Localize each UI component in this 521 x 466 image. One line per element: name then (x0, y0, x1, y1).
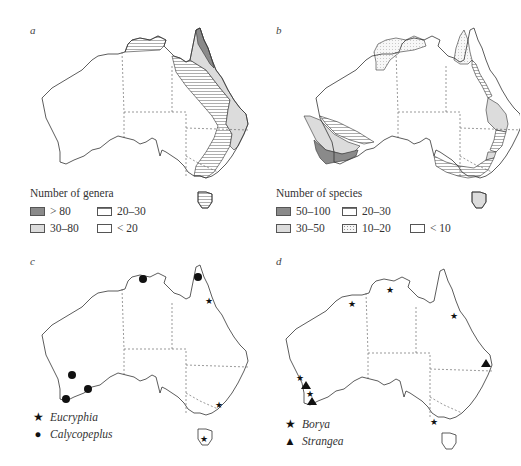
panel-a-genera-map: a Number of genera > 80 20–30 30–80 < 20 (0, 0, 260, 233)
legend-item: ▲ Strangea (284, 435, 344, 447)
legend-label: Borya (302, 418, 330, 430)
legend-item: 20–30 (97, 205, 146, 217)
legend-label: Calycopeplus (50, 428, 113, 440)
region-20-30 (125, 36, 166, 52)
calycopeplus-marker (84, 385, 92, 393)
legend-item: > 80 (30, 205, 71, 217)
panel-b-species-map: b Number of species 50–100 20–30 30–50 (260, 0, 520, 233)
borya-marker: ★ (348, 299, 356, 309)
legend-item: ★ Eucryphia (32, 410, 98, 424)
legend-item: ● Calycopeplus (32, 428, 113, 440)
triangle-icon: ▲ (284, 435, 296, 447)
region-20-30 (490, 130, 506, 152)
region-30-50 (486, 98, 508, 132)
australia-map: ★ ★ ★ ★ ★ ★ (260, 233, 520, 466)
legend-label: Strangea (302, 435, 344, 447)
swatch-dark (30, 207, 45, 216)
borya-marker: ★ (430, 417, 438, 427)
legend-label: 20–30 (117, 205, 146, 217)
borya-marker: ★ (306, 389, 314, 399)
swatch-light (30, 224, 45, 233)
legend-title: Number of species (276, 187, 362, 199)
swatch-empty (410, 224, 425, 233)
legend-item: ★ Borya (284, 417, 330, 431)
star-icon: ★ (284, 417, 296, 431)
borya-marker: ★ (386, 285, 394, 295)
swatch-hatch (342, 207, 357, 216)
calycopeplus-marker (62, 395, 70, 403)
swatch-dots (342, 224, 357, 233)
swatch-dark (276, 207, 291, 216)
region-10-20 (374, 36, 426, 70)
region-20-30 (472, 60, 492, 98)
swatch-light (276, 224, 291, 233)
eucryphia-marker: ★ (200, 434, 208, 444)
region-20-30 (172, 56, 232, 178)
panel-c-eucryphia-calycopeplus-map: c ★ ★ ★ ★ Eucryphia ● Calycopeplus (0, 233, 260, 466)
strangea-marker (481, 359, 491, 367)
calycopeplus-marker (194, 273, 202, 281)
panel-d-borya-strangea-map: d ★ ★ ★ ★ ★ ★ ★ Borya ▲ Strangea (260, 233, 520, 466)
swatch-hatch (97, 207, 112, 216)
calycopeplus-marker (68, 371, 76, 379)
borya-marker: ★ (296, 373, 304, 383)
legend-label: 50–100 (296, 205, 331, 217)
eucryphia-marker: ★ (205, 296, 213, 306)
region-20-30 (434, 156, 494, 178)
legend-label: 20–30 (362, 205, 391, 217)
legend-item: 50–100 (276, 205, 331, 217)
legend-label: Eucryphia (50, 411, 98, 423)
legend-item: 20–30 (342, 205, 391, 217)
borya-marker: ★ (450, 311, 458, 321)
legend-label: > 80 (50, 205, 71, 217)
eucryphia-marker: ★ (215, 400, 223, 410)
swatch-empty (97, 224, 112, 233)
calycopeplus-marker (139, 275, 147, 283)
star-icon: ★ (32, 410, 44, 424)
circle-icon: ● (32, 428, 44, 440)
legend-title: Number of genera (30, 187, 114, 199)
